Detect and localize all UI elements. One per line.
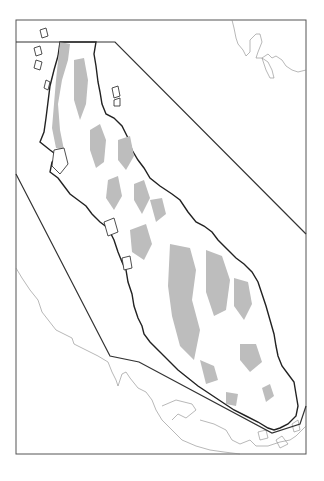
map-canvas [0, 0, 324, 481]
neighbor-island-ne [262, 58, 274, 78]
